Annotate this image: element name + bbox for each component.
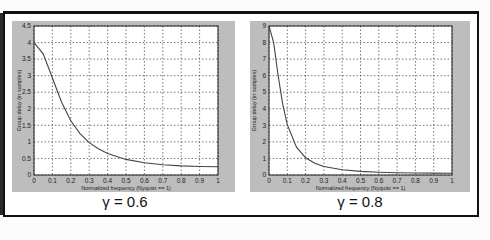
x-tick-label: 0.5 [356,177,365,184]
y-tick-label: 5 [262,88,266,95]
y-tick-label: 4 [27,39,31,46]
x-tick-label: 0.9 [429,177,438,184]
plot-panel-right: 00.10.20.30.40.50.60.70.80.910123456789N… [250,21,470,192]
y-tick-label: 0 [27,171,31,178]
y-tick-label: 4.5 [22,22,31,29]
x-tick-label: 0.4 [103,177,112,184]
chart-right: 00.10.20.30.40.50.60.70.80.910123456789N… [250,21,470,192]
x-tick-label: 0 [267,177,271,184]
y-axis-label: Group delay (in samples) [251,70,257,132]
x-tick-label: 1 [450,177,454,184]
y-tick-label: 3 [27,72,31,79]
y-tick-label: 1 [27,138,31,145]
x-tick-label: 1 [216,177,220,184]
y-tick-label: 1.5 [22,122,31,129]
x-tick-label: 0 [32,177,36,184]
y-tick-label: 4 [262,105,266,112]
y-tick-label: 2.5 [22,88,31,95]
y-tick-label: 8 [262,39,266,46]
x-tick-label: 0.2 [66,177,75,184]
chart-left: 00.10.20.30.40.50.60.70.80.9100.511.522.… [12,21,235,192]
x-tick-label: 0.3 [319,177,328,184]
x-tick-label: 0.6 [140,177,149,184]
x-tick-label: 0.7 [158,177,167,184]
x-tick-label: 0.6 [374,177,383,184]
plot-panel-left: 00.10.20.30.40.50.60.70.80.9100.511.522.… [12,21,235,192]
x-tick-label: 0.5 [121,177,130,184]
x-tick-label: 0.2 [301,177,310,184]
y-axis-label: Group delay (in samples) [16,70,22,132]
y-tick-label: 7 [262,55,266,62]
x-tick-label: 0.4 [338,177,347,184]
y-tick-label: 3.5 [22,55,31,62]
x-tick-label: 0.8 [411,177,420,184]
y-tick-label: 6 [262,72,266,79]
x-tick-label: 0.7 [393,177,402,184]
y-tick-label: 0.5 [22,155,31,162]
y-tick-label: 3 [262,122,266,129]
y-tick-label: 9 [262,22,266,29]
y-tick-label: 2 [262,138,266,145]
x-axis-label: Normalized frequency (Nyquist == 1) [316,185,406,191]
x-tick-label: 0.1 [48,177,57,184]
y-tick-label: 0 [262,171,266,178]
x-tick-label: 0.8 [177,177,186,184]
x-tick-label: 0.1 [283,177,292,184]
y-tick-label: 1 [262,155,266,162]
gamma-label-left: γ = 0.6 [65,193,185,210]
x-tick-label: 0.9 [195,177,204,184]
x-tick-label: 0.3 [85,177,94,184]
y-tick-label: 2 [27,105,31,112]
gamma-label-right: γ = 0.8 [300,193,420,210]
x-axis-label: Normalized frequency (Nyquist == 1) [81,185,171,191]
